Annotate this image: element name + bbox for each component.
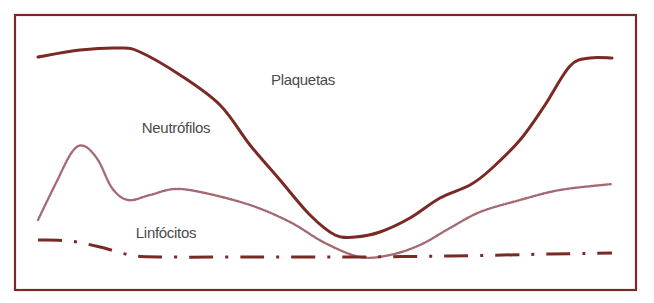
neutrofilos-label: Neutrófilos: [142, 119, 210, 136]
blood-count-chart: Plaquetas Neutrófilos Linfócitos: [0, 0, 654, 303]
plaquetas-label: Plaquetas: [271, 71, 335, 88]
neutrofilos-line: [38, 145, 612, 257]
linfocitos-label: Linfócitos: [136, 224, 196, 241]
